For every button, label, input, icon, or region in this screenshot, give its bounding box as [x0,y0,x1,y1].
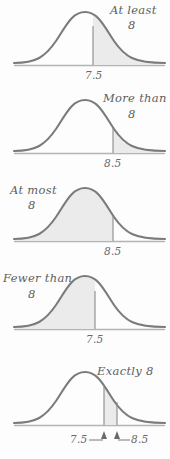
panel-exactly-8-svg: Exactly 8 7.5 8.5 [0,360,170,459]
panel-label-line1: More than [102,91,167,105]
panel-exactly-8: Exactly 8 7.5 8.5 [0,360,170,459]
tick-label-7-5: 7.5 [70,433,87,445]
shaded-region-right [14,101,165,152]
tick-label-8-5: 8.5 [131,433,148,445]
tick-label-8-5: 8.5 [104,157,121,169]
tick-label-8-5: 8.5 [104,245,121,257]
shaded-region-right [14,13,165,64]
panel-label-line1: Exactly 8 [96,364,154,378]
shaded-region-between [14,373,165,424]
panel-label-line1: At least [109,3,157,17]
tick-label-7-5: 7.5 [85,69,102,81]
panel-at-least-8: At least 8 7.5 [0,0,170,88]
normal-curve [14,12,165,63]
panel-at-most-8-svg: At most 8 8.5 [0,176,170,264]
arrow-up-right-icon [114,431,120,439]
panel-label-line2: 8 [28,198,36,212]
panel-label-line2: 8 [128,107,136,121]
tick-label-7-5: 7.5 [86,333,103,345]
panel-more-than-8-svg: More than 8 8.5 [0,88,170,176]
panel-fewer-than-8: Fewer than 8 7.5 [0,264,170,352]
panel-at-most-8: At most 8 8.5 [0,176,170,264]
panel-label-line1: At most [9,183,57,197]
panel-at-least-8-svg: At least 8 7.5 [0,0,170,88]
panel-more-than-8: More than 8 8.5 [0,88,170,176]
panel-fewer-than-8-svg: Fewer than 8 7.5 [0,264,170,352]
panel-label-line2: 8 [128,18,136,32]
panel-label-line1: Fewer than [2,271,72,285]
arrow-up-left-icon [101,431,107,439]
normal-curve [14,100,165,151]
continuity-correction-figure: At least 8 7.5 More than 8 8.5 [0,0,170,459]
normal-curve [14,372,165,423]
panel-label-line2: 8 [28,287,36,301]
